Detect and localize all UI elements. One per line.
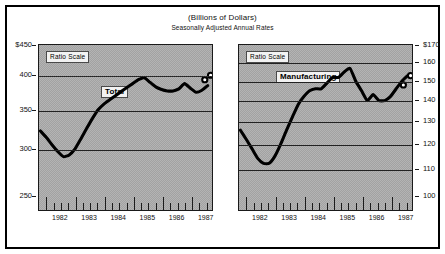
x-axis-minor-tick [327,203,328,210]
x-axis-tick-label: 1984 [304,214,332,222]
x-axis-minor-tick [170,203,171,210]
x-axis-minor-tick [290,203,291,210]
x-axis-major-tick [163,197,164,210]
x-axis-tick-label: 1987 [192,214,220,222]
x-axis-major-tick [46,197,47,210]
x-axis-minor-tick [97,203,98,210]
x-axis-minor-tick [178,203,179,210]
x-axis-tick-label: 1984 [104,214,132,222]
y-axis-tickmark [415,169,419,170]
x-axis-tick-label: 1985 [333,214,361,222]
x-axis-minor-tick [378,203,379,210]
left-chart-y-axis: $450400350300250 [2,44,36,211]
x-axis-tick-label: 1986 [163,214,191,222]
x-axis-minor-tick [297,203,298,210]
y-axis-tickmark [415,196,419,197]
x-axis-minor-tick [207,203,208,210]
x-axis-minor-tick [370,203,371,210]
x-axis-minor-tick [112,203,113,210]
gridline [239,101,412,102]
x-axis-minor-tick [141,203,142,210]
right-chart-x-axis: 198219831984198519861987 [238,214,413,223]
left-chart-tick-strip [39,195,212,210]
y-axis-tick-label: 140 [423,96,436,104]
x-axis-major-tick [276,197,277,210]
right-chart-y-axis: $170160150140130120110100 [415,44,445,211]
x-axis-tick-label: 1982 [46,214,74,222]
left-series-line [39,45,212,210]
gridline-dotted [39,76,212,77]
x-axis-minor-tick [348,203,349,210]
x-axis-minor-tick [399,203,400,210]
x-axis-minor-tick [356,203,357,210]
x-axis-minor-tick [319,203,320,210]
series-data-marker [202,77,207,82]
x-axis-tick-label: 1982 [246,214,274,222]
x-axis-minor-tick [268,203,269,210]
x-axis-major-tick [334,197,335,210]
x-axis-major-tick [105,197,106,210]
y-axis-tickmark [415,144,419,145]
x-axis-minor-tick [61,203,62,210]
gridline [239,82,412,83]
left-chart-panel: Ratio Scale Total [38,44,213,211]
x-axis-minor-tick [185,203,186,210]
series-data-marker [408,73,412,78]
gridline [239,63,412,64]
x-axis-minor-tick [283,203,284,210]
y-axis-tick-label: 300 [19,145,32,153]
x-axis-minor-tick [341,203,342,210]
series-data-marker [401,82,406,87]
x-axis-minor-tick [127,203,128,210]
y-axis-tick-label: 110 [423,165,435,173]
series-line-path [40,78,207,157]
x-axis-major-tick [246,197,247,210]
y-axis-tick-label: 130 [423,117,436,125]
x-axis-minor-tick [119,203,120,210]
y-axis-tick-label: 100 [423,192,436,200]
x-axis-tick-label: 1987 [392,214,420,222]
x-axis-major-tick [363,197,364,210]
x-axis-minor-tick [254,203,255,210]
gridline [239,170,412,171]
x-axis-major-tick [392,197,393,210]
gridline [239,145,412,146]
chart-figure: (Billions of Dollars) Seasonally Adjuste… [0,0,445,254]
x-axis-major-tick [305,197,306,210]
right-chart-plot-area: Ratio Scale Manufacturing [238,44,413,211]
x-axis-minor-tick [199,203,200,210]
gridline [39,150,212,151]
y-axis-tickmark [415,45,419,46]
x-axis-tick-label: 1983 [75,214,103,222]
left-chart-x-axis: 198219831984198519861987 [38,214,213,223]
x-axis-minor-tick [148,203,149,210]
y-axis-tick-label: $450 [15,41,32,49]
y-axis-tick-label: 350 [19,106,32,114]
x-axis-tick-label: 1986 [363,214,391,222]
x-axis-minor-tick [312,203,313,210]
x-axis-minor-tick [156,203,157,210]
y-axis-tickmark [32,75,36,76]
y-axis-tickmark [32,110,36,111]
y-axis-tick-label: 250 [19,192,32,200]
x-axis-minor-tick [385,203,386,210]
right-series-line [239,45,412,210]
y-axis-tickmark [415,100,419,101]
y-axis-tick-label: 400 [19,71,32,79]
gridline [39,111,212,112]
y-axis-tickmark [32,45,36,46]
x-axis-minor-tick [83,203,84,210]
y-axis-tick-label: 150 [423,77,436,85]
x-axis-tick-label: 1983 [275,214,303,222]
x-axis-minor-tick [261,203,262,210]
y-axis-tickmark [415,121,419,122]
y-axis-tickmark [32,149,36,150]
x-axis-major-tick [76,197,77,210]
right-chart-panel: Ratio Scale Manufacturing [238,44,413,211]
gridline [239,122,412,123]
x-axis-minor-tick [407,203,408,210]
left-chart-plot-area: Ratio Scale Total [38,44,213,211]
right-chart-tick-strip [239,195,412,210]
x-axis-major-tick [134,197,135,210]
x-axis-minor-tick [68,203,69,210]
